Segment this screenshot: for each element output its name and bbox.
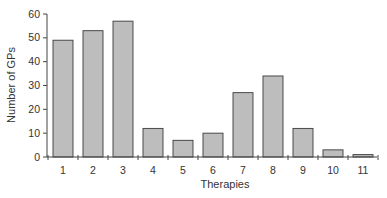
y-tick-label: 0 [34,151,40,163]
bar-3 [113,21,133,157]
x-tick-label: 5 [180,164,186,176]
bar-6 [203,133,223,157]
bars [53,21,373,157]
y-tick-label: 20 [28,103,40,115]
bar-chart: 12345678910110102030405060 Number of GPs… [0,0,387,198]
y-tick-label: 30 [28,79,40,91]
x-tick-label: 3 [120,164,126,176]
bar-1 [53,40,73,157]
x-axis-label: Therapies [201,178,250,190]
y-axis-label: Number of GPs [5,47,17,123]
x-tick-label: 7 [240,164,246,176]
x-tick-label: 8 [270,164,276,176]
chart-canvas: 12345678910110102030405060 Number of GPs… [0,0,387,198]
x-tick-label: 9 [300,164,306,176]
bar-9 [293,128,313,157]
bar-2 [83,31,103,157]
x-tick-label: 4 [150,164,156,176]
bar-7 [233,93,253,157]
bar-5 [173,140,193,157]
y-tick-label: 40 [28,55,40,67]
x-tick-label: 1 [60,164,66,176]
bar-4 [143,128,163,157]
x-tick-label: 11 [358,164,369,176]
bar-10 [323,150,343,157]
x-tick-label: 6 [210,164,216,176]
y-tick-label: 10 [28,127,40,139]
y-tick-label: 60 [28,8,40,20]
bar-8 [263,76,283,157]
y-tick-label: 50 [28,31,40,43]
x-tick-label: 2 [90,164,96,176]
x-tick-label: 10 [327,164,339,176]
